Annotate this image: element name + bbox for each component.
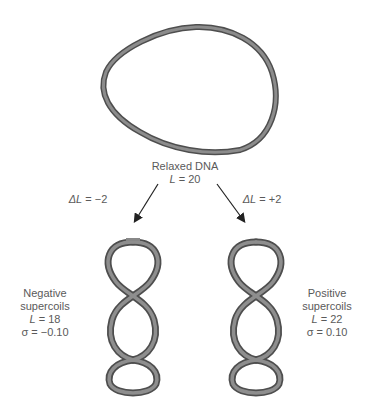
delta-l-positive-label: ΔL = +2 — [232, 193, 292, 206]
linking-symbol: L — [170, 173, 176, 185]
delta-symbol: ΔL — [69, 193, 83, 205]
linking-symbol: L — [312, 313, 318, 325]
negative-linking-number: L = 18 — [5, 313, 85, 326]
arrow-to-negative — [135, 184, 158, 221]
relaxed-dna-title: Relaxed DNA — [135, 160, 235, 173]
relaxed-dna-loop — [103, 27, 275, 152]
linking-value: = 18 — [39, 313, 61, 325]
delta-value: = −2 — [85, 193, 107, 205]
negative-superhelical-density: σ = −0.10 — [5, 326, 85, 339]
delta-symbol: ΔL — [243, 193, 257, 205]
negative-supercoils-label: Negative supercoils L = 18 σ = −0.10 — [5, 287, 85, 339]
relaxed-dna-label: Relaxed DNA L = 20 — [135, 160, 235, 186]
delta-value: = +2 — [259, 193, 281, 205]
positive-supercoil — [231, 242, 281, 393]
negative-title: Negative — [5, 287, 85, 300]
linking-value: = 20 — [179, 173, 201, 185]
sigma-value: = 0.10 — [316, 326, 347, 338]
linking-value: = 22 — [321, 313, 343, 325]
positive-superhelical-density: σ = 0.10 — [287, 326, 367, 339]
positive-title: Positive — [287, 287, 367, 300]
positive-linking-number: L = 22 — [287, 313, 367, 326]
sigma-value: = −0.10 — [31, 326, 68, 338]
relaxed-linking-number: L = 20 — [135, 173, 235, 186]
negative-subtitle: supercoils — [5, 300, 85, 313]
supercoiling-diagram — [0, 0, 371, 408]
positive-subtitle: supercoils — [287, 300, 367, 313]
delta-l-negative-label: ΔL = −2 — [58, 193, 118, 206]
sigma-symbol: σ — [21, 326, 28, 338]
linking-symbol: L — [30, 313, 36, 325]
positive-supercoils-label: Positive supercoils L = 22 σ = 0.10 — [287, 287, 367, 339]
sigma-symbol: σ — [307, 326, 314, 338]
negative-supercoil — [108, 238, 158, 393]
